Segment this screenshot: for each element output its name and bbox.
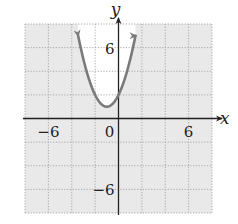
y-tick-label: 6 bbox=[105, 40, 115, 58]
x-tick-label: 0 bbox=[105, 123, 115, 141]
parabola-chart: −6066−6xy bbox=[0, 0, 238, 224]
x-tick-label: 6 bbox=[184, 123, 194, 141]
x-tick-label: −6 bbox=[37, 123, 59, 141]
x-axis-label: x bbox=[220, 108, 230, 128]
y-axis-label: y bbox=[110, 0, 121, 19]
y-tick-label: −6 bbox=[92, 181, 114, 199]
